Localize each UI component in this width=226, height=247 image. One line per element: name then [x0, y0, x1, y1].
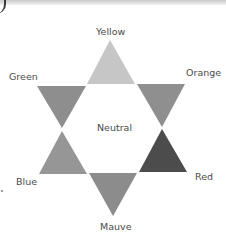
- color-star-diagram: Yellow Orange Red Mauve Blue Green Neutr…: [0, 0, 226, 247]
- label-red: Red: [195, 172, 213, 182]
- label-yellow: Yellow: [96, 27, 125, 37]
- triangle-yellow: [87, 40, 135, 84]
- triangle-orange: [137, 84, 185, 127]
- label-mauve: Mauve: [100, 222, 132, 232]
- triangle-green: [37, 86, 86, 128]
- triangle-red: [139, 129, 187, 172]
- label-orange: Orange: [186, 68, 221, 78]
- label-green: Green: [9, 72, 38, 82]
- label-blue: Blue: [16, 177, 37, 187]
- triangle-blue: [39, 131, 87, 174]
- triangle-mauve: [89, 173, 137, 216]
- label-neutral: Neutral: [97, 123, 132, 133]
